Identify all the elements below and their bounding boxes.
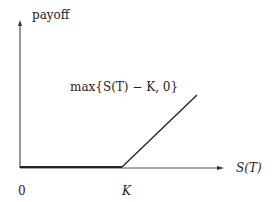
strike-label: K: [122, 184, 131, 198]
x-axis-arrow-icon: [217, 166, 224, 170]
x-axis-label: S(T): [236, 161, 262, 175]
origin-label: 0: [18, 184, 26, 198]
payoff-formula-label: max{S(T) − K, 0}: [70, 80, 178, 94]
payoff-slope-segment: [122, 95, 197, 167]
y-axis-label: payoff: [32, 8, 69, 22]
y-axis-arrow-icon: [18, 20, 22, 26]
